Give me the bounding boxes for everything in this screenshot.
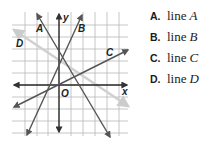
choice-letter: A. bbox=[150, 10, 167, 22]
choice-b[interactable]: B. line B bbox=[150, 29, 199, 50]
choice-letter: C. bbox=[150, 52, 167, 64]
choice-c[interactable]: C. line C bbox=[150, 50, 199, 71]
choice-a[interactable]: A. line A bbox=[150, 8, 199, 29]
label-y: y bbox=[62, 12, 69, 23]
label-x: x bbox=[121, 86, 128, 97]
choice-letter: B. bbox=[150, 31, 167, 43]
grid bbox=[12, 12, 128, 136]
label-b: B bbox=[78, 23, 85, 34]
answer-choices: A. line A B. line B C. line C D. line D bbox=[150, 8, 199, 92]
choice-d[interactable]: D. line D bbox=[150, 71, 199, 92]
label-d: D bbox=[16, 38, 23, 49]
label-a: A bbox=[35, 23, 43, 34]
coordinate-graph: A B C D y O x bbox=[0, 0, 130, 144]
label-c: C bbox=[106, 47, 114, 58]
choice-letter: D. bbox=[150, 73, 167, 85]
label-origin: O bbox=[61, 88, 69, 99]
